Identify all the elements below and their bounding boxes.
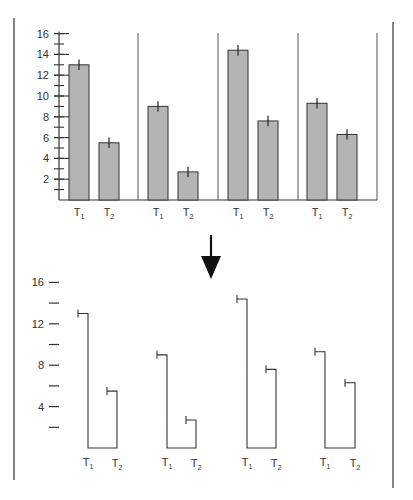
- y-tick-label: 2: [43, 173, 49, 185]
- y-tick-label: 12: [32, 318, 44, 330]
- y-tick-label: 14: [37, 48, 49, 60]
- x-category-label: T1: [162, 456, 173, 470]
- x-category-label: T1: [233, 206, 244, 220]
- x-category-label: T2: [271, 457, 282, 471]
- x-category-label: T1: [153, 206, 164, 220]
- bar: [99, 143, 119, 200]
- y-tick-label: 8: [43, 111, 49, 123]
- bracket: [315, 348, 355, 448]
- x-category-label: T2: [191, 457, 202, 471]
- down-arrow-icon: [201, 235, 221, 279]
- bracket: [78, 309, 117, 448]
- bar-chart-panel: 246810121416T1T2T1T2T1T2T1T2: [37, 28, 377, 220]
- bar: [148, 106, 168, 200]
- y-tick-label: 4: [43, 152, 49, 164]
- x-category-label: T1: [320, 456, 331, 470]
- y-tick-label: 6: [43, 132, 49, 144]
- x-category-label: T1: [83, 456, 94, 470]
- x-category-label: T1: [242, 456, 253, 470]
- x-category-label: T2: [263, 206, 274, 220]
- bar: [258, 121, 278, 200]
- x-category-label: T2: [104, 206, 115, 220]
- y-tick-label: 4: [38, 401, 44, 413]
- x-category-label: T2: [183, 206, 194, 220]
- bracket: [157, 351, 196, 448]
- bracket: [237, 295, 276, 448]
- y-tick-label: 12: [37, 69, 49, 81]
- y-tick-label: 16: [32, 276, 44, 288]
- bar: [337, 134, 357, 200]
- bar: [307, 103, 327, 200]
- bracket-chart-panel: 161284T1T2T1T2T1T2T1T2: [32, 276, 361, 471]
- x-category-label: T1: [312, 206, 323, 220]
- y-tick-label: 10: [37, 90, 49, 102]
- x-category-label: T1: [74, 206, 85, 220]
- x-category-label: T2: [342, 206, 353, 220]
- bar: [69, 65, 89, 200]
- y-tick-label: 16: [37, 28, 49, 40]
- bar: [228, 50, 248, 200]
- x-category-label: T2: [350, 457, 361, 471]
- y-tick-label: 8: [38, 359, 44, 371]
- figure: 246810121416T1T2T1T2T1T2T1T2 161284T1T2T…: [0, 0, 413, 500]
- x-category-label: T2: [112, 457, 123, 471]
